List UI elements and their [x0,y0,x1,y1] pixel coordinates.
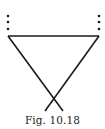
right-dot-3 [98,28,101,31]
left-dot-1 [7,15,10,18]
left-dot-3 [7,28,10,31]
diagram [0,0,105,129]
left-dots [7,15,10,31]
right-dot-1 [98,15,101,18]
left-dot-2 [7,21,10,24]
right-diagonal-line [45,36,99,111]
right-dots [98,15,101,31]
right-dot-2 [98,21,101,24]
left-diagonal-line [8,36,63,111]
figure-caption: Fig. 10.18 [0,114,105,126]
